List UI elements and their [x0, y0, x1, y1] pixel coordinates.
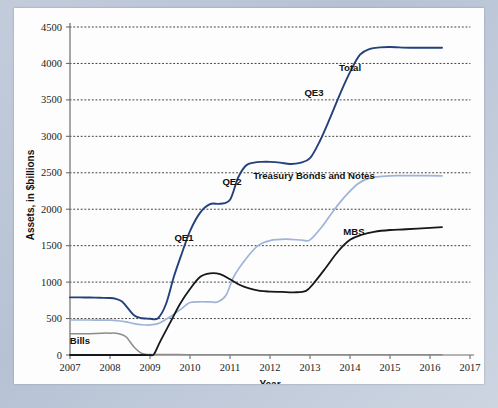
- y-tick-label: 0: [57, 350, 62, 361]
- x-axis-title: Year: [259, 379, 280, 384]
- x-tick-label: 2016: [420, 362, 441, 373]
- y-tick-label: 3000: [41, 131, 62, 142]
- annotation-qe1: QE1: [174, 232, 194, 243]
- y-tick-label: 2000: [41, 204, 62, 215]
- x-tick-label: 2015: [380, 362, 401, 373]
- x-tick-label: 2007: [60, 362, 81, 373]
- chart-card: 050010001500200025003000350040004500 200…: [14, 8, 484, 384]
- y-axis-title: Assets, in $billions: [25, 149, 36, 240]
- y-tick-label: 4500: [41, 22, 62, 33]
- x-tick-label: 2012: [260, 362, 281, 373]
- annotation-bills: Bills: [70, 335, 90, 346]
- annotation-qe2: QE2: [222, 176, 241, 187]
- y-tick-label: 3500: [41, 94, 62, 105]
- annotation-treasury-bonds-and-notes: Treasury Bonds and Notes: [253, 170, 375, 181]
- data-series-group: [70, 47, 442, 355]
- x-tick-label: 2011: [220, 362, 241, 373]
- annotation-qe3: QE3: [304, 87, 323, 98]
- series-line-bills: [70, 333, 442, 355]
- y-tick-label: 1000: [41, 277, 62, 288]
- screenshot-background: 050010001500200025003000350040004500 200…: [0, 0, 498, 408]
- x-tick-label: 2010: [180, 362, 201, 373]
- annotation-mbs: MBS: [343, 226, 365, 237]
- y-tick-label: 4000: [41, 58, 62, 69]
- series-line-total: [70, 47, 442, 319]
- x-tick-label: 2017: [460, 362, 481, 373]
- x-axis-ticks-group: 2007200820092010201120122013201420152016…: [60, 355, 481, 373]
- x-tick-label: 2013: [300, 362, 321, 373]
- x-tick-label: 2009: [140, 362, 161, 373]
- y-tick-label: 500: [46, 313, 62, 324]
- x-tick-label: 2014: [340, 362, 362, 373]
- annotation-total: Total: [339, 62, 361, 73]
- series-line-treasury-bonds-and-notes: [70, 176, 442, 325]
- y-axis-ticks-group: 050010001500200025003000350040004500: [41, 22, 70, 361]
- x-tick-label: 2008: [100, 362, 121, 373]
- y-tick-label: 1500: [41, 240, 62, 251]
- federal-reserve-assets-line-chart: 050010001500200025003000350040004500 200…: [14, 8, 484, 384]
- y-tick-label: 2500: [41, 167, 62, 178]
